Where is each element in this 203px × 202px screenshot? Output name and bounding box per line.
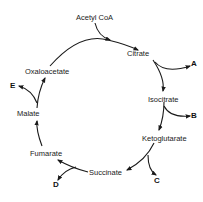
arrow-succinate-to-fumarate — [58, 160, 88, 172]
arrow-malate-to-oxaloacetate — [37, 78, 45, 108]
output-A: A — [191, 60, 197, 68]
label-fumarate: Fumarate — [30, 150, 62, 158]
arrow-to-A — [155, 62, 190, 69]
label-citrate: Citrate — [127, 50, 149, 58]
output-E: E — [10, 82, 15, 90]
arrow-isocitrate-to-ketoglutarate — [159, 102, 164, 130]
arrow-to-D — [58, 167, 76, 180]
arrow-oxaloacetate-to-citrate — [50, 38, 138, 66]
citric-acid-cycle-diagram: Acetyl CoA Citrate Isocitrate Ketoglutar… — [0, 0, 203, 202]
output-B: B — [191, 112, 197, 120]
arrow-acetyl-coa-input — [95, 23, 110, 40]
label-acetyl-coa: Acetyl CoA — [76, 14, 113, 22]
label-succinate: Succinate — [89, 169, 122, 177]
output-D: D — [53, 181, 59, 189]
label-malate: Malate — [17, 110, 40, 118]
arrow-to-C — [148, 155, 156, 175]
arrow-fumarate-to-malate — [37, 121, 42, 146]
label-ketoglutarate: Ketoglutarate — [142, 135, 187, 143]
arrow-to-B — [164, 106, 190, 116]
label-isocitrate: Isocitrate — [148, 96, 178, 104]
output-C: C — [154, 177, 160, 185]
arrow-to-E — [19, 86, 37, 103]
label-oxaloacetate: Oxaloacetate — [25, 68, 69, 76]
